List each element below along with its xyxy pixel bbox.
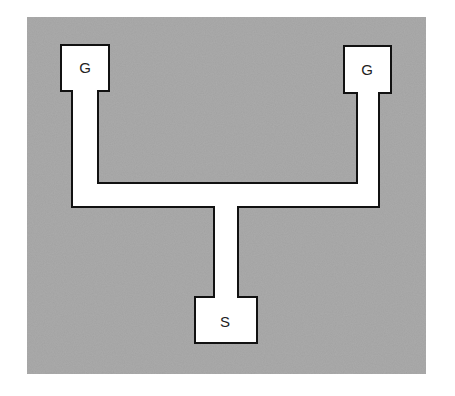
source-label: S xyxy=(220,313,230,330)
transistor-layout-diagram: G G S xyxy=(0,0,455,396)
gate-right-label: G xyxy=(361,61,373,78)
gate-left-label: G xyxy=(79,59,91,76)
